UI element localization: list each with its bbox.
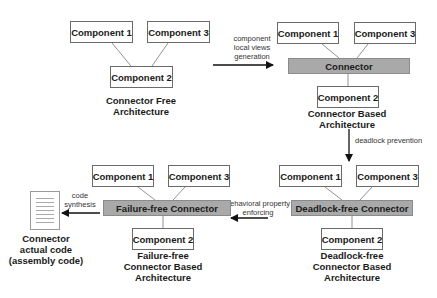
- caption-line: Deadlock-free: [313, 250, 392, 261]
- output-caption: Connector actual code (assembly code): [9, 233, 83, 266]
- caption-line: Connector Based: [313, 261, 392, 272]
- stage2-component-2: Component 2: [317, 86, 379, 108]
- stage1-component-1: Component 1: [70, 21, 133, 43]
- arrow1-label: component local views generation: [233, 34, 270, 61]
- stage2-caption: Connector Based Architecture: [308, 108, 387, 130]
- caption-line: Connector Free: [106, 95, 176, 106]
- stage1-caption: Connector Free Architecture: [106, 95, 176, 117]
- label-line: code: [64, 191, 95, 200]
- stage3-component-2: Component 2: [321, 228, 383, 250]
- stage4-component-1: Component 1: [92, 165, 154, 187]
- label-line: component: [233, 34, 270, 43]
- label-line: behavioral property: [226, 199, 290, 208]
- stage3-caption: Deadlock-free Connector Based Architectu…: [313, 250, 392, 283]
- stage2-component-3: Component 3: [354, 22, 416, 44]
- caption-line: Architecture: [106, 106, 176, 117]
- label-line: local views: [233, 43, 270, 52]
- arrow4-label: code synthesis: [64, 191, 95, 209]
- label-line: enforcing: [226, 208, 290, 217]
- caption-line: Architecture: [313, 272, 392, 283]
- stage4-caption: Failure-free Connector Based Architectur…: [124, 250, 203, 283]
- stage2-connector: Connector: [288, 58, 410, 74]
- caption-line: (assembly code): [9, 255, 83, 266]
- stage3-component-1: Component 1: [279, 165, 342, 187]
- arrow3-label: behavioral property enforcing: [226, 199, 290, 217]
- stage3-deadlock-free-connector: Deadlock-free Connector: [291, 200, 413, 216]
- stage3-component-3: Component 3: [356, 165, 419, 187]
- caption-line: actual code: [9, 244, 83, 255]
- caption-line: Connector Based: [308, 108, 387, 119]
- label-line: synthesis: [64, 200, 95, 209]
- stage1-component-3: Component 3: [147, 21, 210, 43]
- arrow2-label: deadlock prevention: [355, 136, 422, 145]
- caption-line: Failure-free: [124, 250, 203, 261]
- stage4-component-2: Component 2: [132, 228, 194, 250]
- stage4-failure-free-connector: Failure-free Connector: [103, 200, 231, 216]
- document-icon: [30, 191, 60, 230]
- caption-line: Connector: [9, 233, 83, 244]
- label-line: generation: [233, 52, 270, 61]
- stage4-component-3: Component 3: [168, 165, 230, 187]
- caption-line: Architecture: [308, 119, 387, 130]
- caption-line: Connector Based: [124, 261, 203, 272]
- stage2-component-1: Component 1: [277, 22, 339, 44]
- stage1-component-2: Component 2: [110, 66, 173, 88]
- caption-line: Architecture: [124, 272, 203, 283]
